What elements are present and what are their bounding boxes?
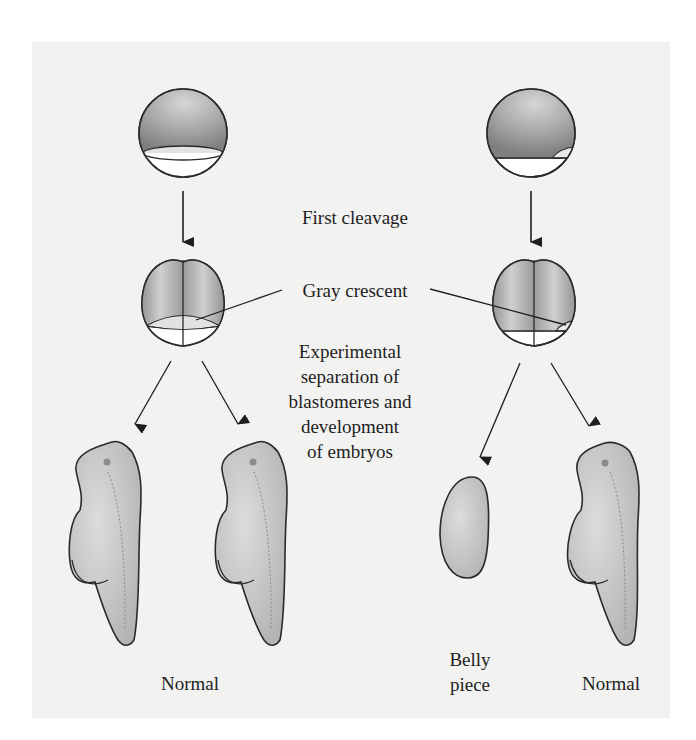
arrow-left-to-embryo-2 (202, 361, 238, 424)
label-experimental-line-2: separation of (270, 364, 430, 389)
label-experimental-line-1: Experimental (270, 339, 430, 364)
right-two-cell (489, 255, 580, 346)
label-normal-left: Normal (140, 671, 240, 696)
label-experimental-line-4: development (270, 414, 430, 439)
label-experimental-line-3: blastomeres and (270, 389, 430, 414)
right-zygote (480, 80, 590, 177)
label-belly-piece-line-1: Belly (440, 647, 500, 672)
label-normal-right: Normal (566, 671, 656, 696)
normal-embryo-left-1 (69, 441, 141, 645)
label-gray-crescent: Gray crescent (283, 278, 427, 303)
arrow-right-to-belly-piece (480, 363, 520, 457)
normal-embryo-right (568, 442, 639, 645)
label-belly-piece: Belly piece (440, 647, 500, 697)
normal-embryo-left-2 (215, 441, 287, 645)
belly-piece (440, 477, 489, 578)
label-belly-piece-line-2: piece (440, 672, 500, 697)
label-first-cleavage: First cleavage (285, 205, 425, 230)
label-experimental-separation: Experimental separation of blastomeres a… (270, 339, 430, 464)
left-zygote (130, 80, 240, 183)
arrow-left-to-embryo-1 (135, 361, 171, 424)
arrow-right-to-embryo (551, 363, 589, 426)
label-experimental-line-5: of embryos (270, 439, 430, 464)
left-two-cell (138, 255, 228, 353)
